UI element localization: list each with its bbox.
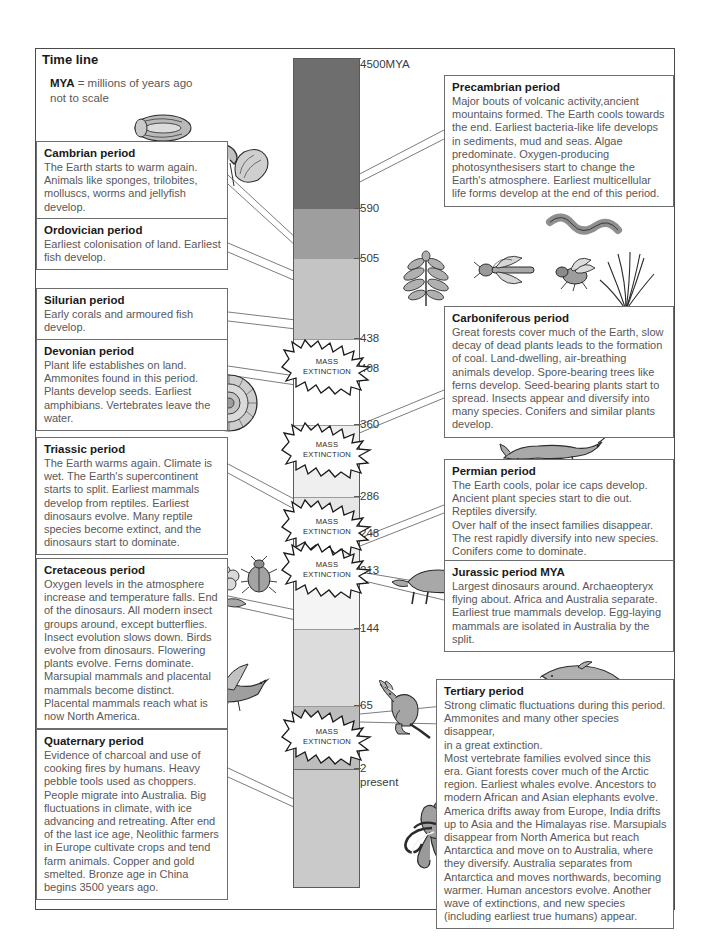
period-box-tertiary[interactable]: Tertiary period Strong climatic fluctuat… xyxy=(436,679,674,929)
period-title: Devonian period xyxy=(44,344,221,358)
period-title: Quaternary period xyxy=(44,734,221,748)
period-box-silurian[interactable]: Silurian period Early corals and armoure… xyxy=(36,288,228,340)
period-box-devonian[interactable]: Devonian period Plant life establishes o… xyxy=(36,339,228,431)
period-box-quaternary[interactable]: Quaternary period Evidence of charcoal a… xyxy=(36,729,228,900)
mass-extinction-label: MASS EXTINCTION xyxy=(278,440,376,459)
dragonfly-illustration xyxy=(466,248,540,296)
period-body: Earliest colonisation of land. Earliest … xyxy=(44,238,221,264)
tick-label-4500: 4500MYA xyxy=(360,58,416,70)
band-quaternary xyxy=(294,769,359,887)
band-ordovician xyxy=(294,259,359,339)
period-title: Triassic period xyxy=(44,442,221,456)
period-title: Precambrian period xyxy=(452,80,667,94)
period-body: Evidence of charcoal and use of cooking … xyxy=(44,749,221,894)
period-body: Plant life establishes on land. Ammonite… xyxy=(44,359,221,425)
mass-extinction-label: MASS EXTINCTION xyxy=(278,357,376,376)
period-box-jurassic[interactable]: Jurassic period MYA Largest dinosaurs ar… xyxy=(444,560,674,652)
mollusc-shell-illustration xyxy=(230,146,272,186)
period-title: Silurian period xyxy=(44,293,221,307)
period-body: Oxygen levels in the atmosphere increase… xyxy=(44,578,221,723)
mass-extinction-marker: MASS EXTINCTION xyxy=(278,338,376,396)
period-title: Cambrian period xyxy=(44,146,221,160)
mass-extinction-marker: MASS EXTINCTION xyxy=(278,541,376,599)
period-box-triassic[interactable]: Triassic period The Earth warms again. C… xyxy=(36,437,228,555)
period-box-ordovician[interactable]: Ordovician period Earliest colonisation … xyxy=(36,218,228,270)
band-precambrian xyxy=(294,59,359,209)
period-title: Ordovician period xyxy=(44,223,221,237)
tick-label-144: 144 xyxy=(360,622,416,634)
band-cambrian xyxy=(294,209,359,259)
mass-extinction-label: MASS EXTINCTION xyxy=(278,727,376,746)
kangaroo-illustration xyxy=(366,680,434,740)
period-title: Cretaceous period xyxy=(44,563,221,577)
period-body: Early corals and armoured fish develop. xyxy=(44,308,221,334)
tick-label-590: 590 xyxy=(360,202,416,214)
period-body: The Earth starts to warm again. Animals … xyxy=(44,161,221,214)
period-body: Largest dinosaurs around. Archaeopteryx … xyxy=(452,580,667,646)
conifer-branch-illustration xyxy=(596,248,658,312)
band-cretaceous xyxy=(294,629,359,706)
mass-extinction-label: MASS EXTINCTION xyxy=(278,517,376,536)
fern-illustration xyxy=(400,250,452,308)
beetle-illustration xyxy=(238,556,280,596)
period-body: Major bouts of volcanic activity,ancient… xyxy=(452,95,667,201)
period-box-carboniferous[interactable]: Carboniferous period Great forests cover… xyxy=(444,306,674,438)
mass-extinction-marker: MASS EXTINCTION xyxy=(278,421,376,479)
period-box-cambrian[interactable]: Cambrian period The Earth starts to warm… xyxy=(36,141,228,220)
period-title: Jurassic period MYA xyxy=(452,565,667,579)
period-title: Carboniferous period xyxy=(452,311,667,325)
period-box-precambrian[interactable]: Precambrian period Major bouts of volcan… xyxy=(444,75,674,207)
period-body: Great forests cover much of the Earth, s… xyxy=(452,326,667,432)
period-title: Tertiary period xyxy=(444,684,667,698)
period-box-cretaceous[interactable]: Cretaceous period Oxygen levels in the a… xyxy=(36,558,228,729)
mass-extinction-marker: MASS EXTINCTION xyxy=(278,708,376,766)
fly-illustration xyxy=(551,252,597,292)
period-body: Strong climatic fluctuations during this… xyxy=(444,699,667,923)
timeline-page: Time line MYA = millions of years ago no… xyxy=(0,0,711,940)
period-body: The Earth warms again. Climate is wet. T… xyxy=(44,457,221,549)
period-box-permian[interactable]: Permian period The Earth cools, polar ic… xyxy=(444,459,674,564)
mass-extinction-label: MASS EXTINCTION xyxy=(278,560,376,579)
period-title: Permian period xyxy=(452,464,667,478)
period-body: The Earth cools, polar ice caps develop.… xyxy=(452,479,667,558)
